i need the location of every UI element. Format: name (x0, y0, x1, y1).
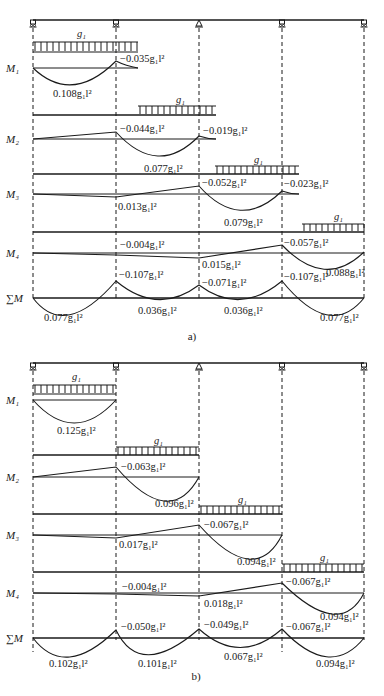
svg-text:−0.044g₁l²: −0.044g₁l² (120, 123, 165, 134)
moment-row-a-m1: M₁ −0.035g₁l² 0.108g₁l² (5, 53, 165, 99)
svg-text:g₁: g₁ (72, 371, 81, 382)
load-b-m1: g₁ (33, 371, 116, 394)
caption-a: a) (188, 330, 197, 343)
moment-row-b-m2: M₂ −0.063g₁l² 0.096g₁l² (5, 461, 199, 509)
moment-row-a-m2: M₂ −0.044g₁l² −0.019g₁l² 0.077g₁l² (5, 123, 248, 174)
svg-text:−0.049g₁l²: −0.049g₁l² (204, 619, 249, 630)
svg-text:M₃: M₃ (5, 529, 19, 541)
moment-row-b-m4: M₄ −0.004g₁l² −0.067g₁l² 0.018g₁l² 0.094… (5, 576, 364, 622)
svg-text:∑M: ∑M (6, 632, 24, 645)
svg-text:0.079g₁l²: 0.079g₁l² (224, 217, 263, 228)
load-a-m1: g₁ (33, 28, 138, 52)
svg-text:0.088g₁l²: 0.088g₁l² (326, 267, 365, 278)
svg-text:M₁: M₁ (5, 394, 19, 406)
svg-text:−0.107g₁l²: −0.107g₁l² (284, 271, 329, 282)
svg-text:−0.023g₁l²: −0.023g₁l² (284, 178, 329, 189)
svg-text:0.013g₁l²: 0.013g₁l² (118, 201, 157, 212)
svg-text:g₁: g₁ (254, 154, 263, 165)
roller-support-icon (113, 363, 120, 370)
svg-text:−0.067g₁l²: −0.067g₁l² (204, 519, 249, 530)
supports-b (30, 363, 368, 370)
moment-row-b-sum: ∑M −0.050g₁l² −0.049g₁l² −0.067g₁l² 0.10… (6, 619, 364, 669)
svg-text:M₄: M₄ (5, 247, 19, 259)
svg-text:−0.067g₁l²: −0.067g₁l² (286, 576, 331, 587)
moment-row-a-m3: M₃ −0.052g₁l² −0.023g₁l² 0.013g₁l² 0.079… (5, 177, 329, 228)
svg-text:−0.035g₁l²: −0.035g₁l² (120, 53, 165, 64)
svg-text:0.101g₁l²: 0.101g₁l² (138, 658, 177, 669)
moment-row-a-sum: ∑M −0.107g₁l² −0.071g₁l² −0.107g₁l² 0.07… (6, 269, 364, 323)
continuous-beam-moment-diagrams: g₁ M₁ −0.035g₁l² 0.108g₁l² g₁ M₂ −0.044g… (0, 0, 384, 696)
svg-text:0.017g₁l²: 0.017g₁l² (119, 539, 158, 550)
svg-text:−0.050g₁l²: −0.050g₁l² (121, 621, 166, 632)
svg-text:g₁: g₁ (238, 494, 247, 505)
row-label: M₁ (5, 62, 19, 74)
svg-text:−0.107g₁l²: −0.107g₁l² (119, 269, 164, 280)
moment-row-b-m3: M₃ −0.067g₁l² 0.017g₁l² 0.094g₁l² (5, 519, 282, 567)
svg-text:0.094g₁l²: 0.094g₁l² (316, 658, 355, 669)
svg-text:g₁: g₁ (154, 435, 163, 446)
svg-text:M₂: M₂ (5, 133, 19, 145)
svg-text:0.108g₁l²: 0.108g₁l² (53, 88, 92, 99)
svg-text:M₃: M₃ (5, 188, 19, 200)
svg-text:M₄: M₄ (5, 587, 19, 599)
svg-text:0.077g₁l²: 0.077g₁l² (320, 312, 359, 323)
svg-text:0.067g₁l²: 0.067g₁l² (224, 651, 263, 662)
support-guides-a (33, 28, 364, 300)
svg-text:0.102g₁l²: 0.102g₁l² (49, 658, 88, 669)
pin-support-icon (195, 363, 203, 370)
load-label: g₁ (77, 28, 86, 39)
part-a: g₁ M₁ −0.035g₁l² 0.108g₁l² g₁ M₂ −0.044g… (5, 20, 368, 343)
svg-text:g₁: g₁ (320, 552, 329, 563)
svg-text:0.036g₁l²: 0.036g₁l² (138, 305, 177, 316)
svg-text:0.077g₁l²: 0.077g₁l² (144, 163, 183, 174)
svg-text:0.125g₁l²: 0.125g₁l² (57, 425, 96, 436)
part-b: g₁ M₁ 0.125g₁l² g₁ M₂ −0.063g₁l² 0.096g₁… (5, 363, 368, 683)
svg-text:−0.052g₁l²: −0.052g₁l² (202, 177, 247, 188)
svg-text:−0.004g₁l²: −0.004g₁l² (122, 581, 167, 592)
svg-text:0.094g₁l²: 0.094g₁l² (237, 556, 276, 567)
svg-text:0.077g₁l²: 0.077g₁l² (44, 312, 83, 323)
svg-text:−0.004g₁l²: −0.004g₁l² (120, 239, 165, 250)
svg-text:0.096g₁l²: 0.096g₁l² (155, 498, 194, 509)
svg-text:−0.063g₁l²: −0.063g₁l² (121, 461, 166, 472)
svg-text:∑M: ∑M (6, 292, 24, 305)
roller-support-icon (30, 363, 37, 370)
roller-support-icon (361, 20, 368, 27)
svg-text:M₂: M₂ (5, 471, 19, 483)
moment-row-b-m1: M₁ 0.125g₁l² (5, 394, 116, 436)
roller-support-icon (361, 363, 368, 370)
roller-support-icon (279, 363, 286, 370)
pin-support-icon (195, 20, 203, 27)
load-a-m4: g₁ (33, 211, 364, 232)
supports-a (30, 20, 368, 27)
svg-text:0.015g₁l²: 0.015g₁l² (202, 259, 241, 270)
support-guides-b (33, 371, 364, 652)
roller-support-icon (279, 20, 286, 27)
svg-text:−0.019g₁l²: −0.019g₁l² (203, 125, 248, 136)
roller-support-icon (30, 20, 37, 27)
svg-text:g₁: g₁ (334, 211, 343, 222)
svg-text:−0.071g₁l²: −0.071g₁l² (202, 277, 247, 288)
svg-text:0.018g₁l²: 0.018g₁l² (204, 598, 243, 609)
svg-text:−0.057g₁l²: −0.057g₁l² (284, 237, 329, 248)
roller-support-icon (113, 20, 120, 27)
svg-text:g₁: g₁ (176, 94, 185, 105)
caption-b: b) (191, 670, 201, 683)
svg-text:0.036g₁l²: 0.036g₁l² (224, 305, 263, 316)
svg-text:−0.067g₁l²: −0.067g₁l² (286, 621, 331, 632)
